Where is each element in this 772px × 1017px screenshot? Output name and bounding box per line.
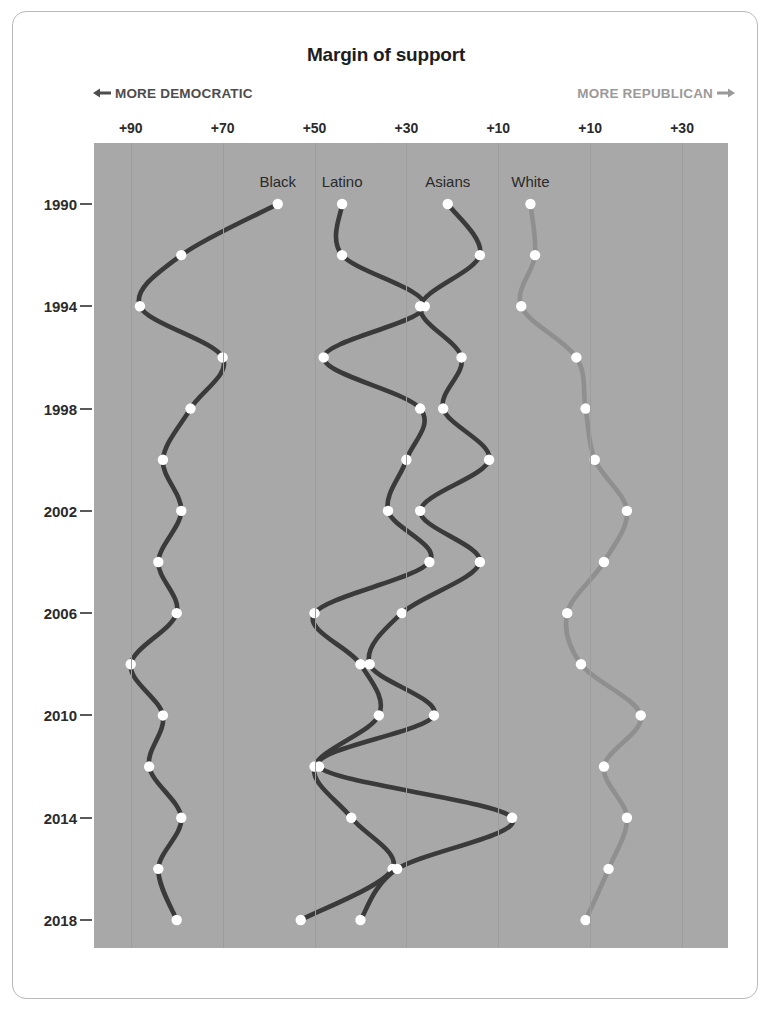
- more-republican-text: MORE REPUBLICAN: [577, 86, 713, 101]
- y-tick-label: 1990: [44, 196, 77, 213]
- x-tick-label: +90: [119, 120, 143, 136]
- data-point[interactable]: [172, 608, 182, 618]
- series-label-black: Black: [259, 173, 296, 190]
- data-point[interactable]: [484, 455, 494, 465]
- y-tick-label: 2018: [44, 912, 77, 929]
- y-tick-mark: [80, 919, 92, 921]
- x-tick-label: +30: [670, 120, 694, 136]
- series-line: [131, 204, 278, 920]
- data-point[interactable]: [562, 608, 572, 618]
- series-line: [520, 204, 641, 920]
- data-point[interactable]: [456, 352, 466, 362]
- data-point[interactable]: [172, 915, 182, 925]
- data-point[interactable]: [636, 710, 646, 720]
- series-latino: [296, 199, 435, 925]
- data-point[interactable]: [424, 557, 434, 567]
- data-point[interactable]: [158, 455, 168, 465]
- data-point[interactable]: [475, 250, 485, 260]
- data-point[interactable]: [507, 813, 517, 823]
- gridline: [223, 143, 224, 948]
- y-tick-mark: [80, 305, 92, 307]
- y-tick-mark: [80, 817, 92, 819]
- data-point[interactable]: [525, 199, 535, 209]
- data-point[interactable]: [622, 813, 632, 823]
- gridline: [590, 143, 591, 948]
- data-point[interactable]: [185, 403, 195, 413]
- data-point[interactable]: [158, 710, 168, 720]
- x-tick-label: +10: [486, 120, 510, 136]
- data-point[interactable]: [392, 864, 402, 874]
- series-label-white: White: [511, 173, 549, 190]
- series-label-asians: Asians: [425, 173, 470, 190]
- series-white: [516, 199, 646, 925]
- y-tick-label: 2002: [44, 502, 77, 519]
- series-lines: [94, 143, 728, 948]
- data-point[interactable]: [415, 506, 425, 516]
- data-point[interactable]: [153, 557, 163, 567]
- series-asians: [314, 199, 517, 925]
- y-tick-mark: [80, 203, 92, 205]
- gridline: [406, 143, 407, 948]
- gridline: [315, 143, 316, 948]
- gridline: [682, 143, 683, 948]
- y-tick-mark: [80, 612, 92, 614]
- data-point[interactable]: [355, 915, 365, 925]
- data-point[interactable]: [176, 813, 186, 823]
- data-point[interactable]: [337, 250, 347, 260]
- series-line: [301, 204, 432, 920]
- data-point[interactable]: [429, 710, 439, 720]
- more-republican-label: MORE REPUBLICAN: [577, 86, 735, 102]
- chart-card: Margin of support MORE DEMOCRATIC MORE R…: [12, 11, 758, 999]
- gridline: [498, 143, 499, 948]
- y-tick-label: 2010: [44, 707, 77, 724]
- data-point[interactable]: [443, 199, 453, 209]
- data-point[interactable]: [296, 915, 306, 925]
- data-point[interactable]: [355, 659, 365, 669]
- right-arrow-icon: [717, 87, 735, 102]
- data-point[interactable]: [176, 506, 186, 516]
- x-tick-label: +50: [303, 120, 327, 136]
- data-point[interactable]: [415, 301, 425, 311]
- data-point[interactable]: [176, 250, 186, 260]
- y-tick-mark: [80, 714, 92, 716]
- data-point[interactable]: [599, 557, 609, 567]
- x-axis-ticks: +90+70+50+30+10+10+30: [13, 120, 759, 140]
- x-tick-label: +70: [211, 120, 235, 136]
- plot-area: BlackLatinoAsiansWhite: [94, 143, 728, 948]
- data-point[interactable]: [383, 506, 393, 516]
- y-tick-label: 1998: [44, 400, 77, 417]
- y-tick-label: 2014: [44, 809, 77, 826]
- series-label-latino: Latino: [322, 173, 363, 190]
- data-point[interactable]: [576, 659, 586, 669]
- data-point[interactable]: [346, 813, 356, 823]
- data-point[interactable]: [415, 403, 425, 413]
- data-point[interactable]: [590, 455, 600, 465]
- page-title: Margin of support: [13, 44, 759, 66]
- data-point[interactable]: [571, 352, 581, 362]
- data-point[interactable]: [475, 557, 485, 567]
- data-point[interactable]: [337, 199, 347, 209]
- y-tick-label: 1994: [44, 298, 77, 315]
- y-tick-label: 2006: [44, 605, 77, 622]
- data-point[interactable]: [144, 761, 154, 771]
- data-point[interactable]: [530, 250, 540, 260]
- data-point[interactable]: [516, 301, 526, 311]
- data-point[interactable]: [364, 659, 374, 669]
- x-tick-label: +30: [395, 120, 419, 136]
- data-point[interactable]: [273, 199, 283, 209]
- data-point[interactable]: [135, 301, 145, 311]
- y-tick-mark: [80, 408, 92, 410]
- data-point[interactable]: [153, 864, 163, 874]
- left-arrow-icon: [93, 87, 111, 102]
- data-point[interactable]: [319, 352, 329, 362]
- gridline: [131, 143, 132, 948]
- data-point[interactable]: [603, 864, 613, 874]
- y-axis-ticks: 19901994199820022006201020142018: [13, 143, 94, 948]
- y-tick-mark: [80, 510, 92, 512]
- data-point[interactable]: [599, 761, 609, 771]
- data-point[interactable]: [622, 506, 632, 516]
- data-point[interactable]: [374, 710, 384, 720]
- more-democratic-text: MORE DEMOCRATIC: [115, 86, 253, 101]
- x-tick-label: +10: [578, 120, 602, 136]
- data-point[interactable]: [438, 403, 448, 413]
